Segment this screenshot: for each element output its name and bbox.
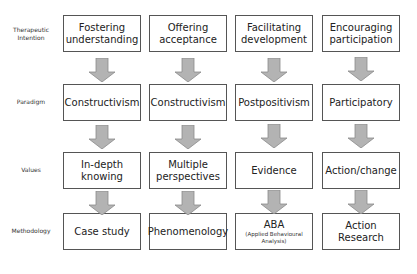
box-paradigm-participatory: Participatory xyxy=(322,84,400,121)
row-label-values: Values xyxy=(0,166,62,174)
box-text: Research xyxy=(338,232,384,244)
box-text: Action xyxy=(345,220,376,232)
box-text: acceptance xyxy=(159,34,217,46)
box-text: Facilitating xyxy=(247,22,301,34)
down-arrow-icon xyxy=(89,125,115,149)
row-label-line: Therapeutic xyxy=(0,26,62,34)
row-label-line: Intention xyxy=(0,34,62,42)
down-arrow-icon xyxy=(261,190,287,214)
box-text: Participatory xyxy=(329,97,392,109)
box-values-action-change: Action/change xyxy=(322,152,400,189)
box-subtext: Analysis) xyxy=(262,238,287,245)
down-arrow-icon xyxy=(175,191,201,215)
down-arrow-icon xyxy=(89,191,115,215)
box-text: ABA xyxy=(264,219,285,231)
box-paradigm-constructivism: Constructivism xyxy=(149,84,227,121)
down-arrow-icon xyxy=(348,190,374,214)
box-text: Phenomenology xyxy=(148,226,229,238)
box-text: knowing xyxy=(81,171,123,183)
row-label-therapeutic-intention: Therapeutic Intention xyxy=(0,26,62,42)
row-label-paradigm: Paradigm xyxy=(0,98,62,106)
box-text: Encouraging xyxy=(330,22,393,34)
box-text: Multiple xyxy=(168,159,208,171)
down-arrow-icon xyxy=(89,58,115,82)
box-text: development xyxy=(241,34,307,46)
box-intention-offering-acceptance: Offering acceptance xyxy=(149,15,227,52)
down-arrow-icon xyxy=(348,124,374,148)
box-text: Offering xyxy=(168,22,209,34)
box-text: Constructivism xyxy=(151,97,226,109)
box-text: Constructivism xyxy=(65,97,140,109)
box-text: perspectives xyxy=(156,171,220,183)
down-arrow-icon xyxy=(348,57,374,81)
box-paradigm-constructivism: Constructivism xyxy=(63,84,141,121)
box-text: understanding xyxy=(66,34,139,46)
box-values-multiple-perspectives: Multiple perspectives xyxy=(149,152,227,189)
box-methodology-action-research: Action Research xyxy=(322,213,400,250)
box-text: Case study xyxy=(74,226,129,238)
box-text: Evidence xyxy=(251,165,297,177)
box-methodology-case-study: Case study xyxy=(63,213,141,250)
box-subtext: (Applied Behavioural xyxy=(245,231,302,238)
box-intention-fostering-understanding: Fostering understanding xyxy=(63,15,141,52)
box-text: Action/change xyxy=(325,165,397,177)
down-arrow-icon xyxy=(175,125,201,149)
box-text: participation xyxy=(329,34,392,46)
down-arrow-icon xyxy=(261,58,287,82)
box-text: In-depth xyxy=(81,159,123,171)
down-arrow-icon xyxy=(175,58,201,82)
box-intention-encouraging-participation: Encouraging participation xyxy=(322,15,400,52)
box-intention-facilitating-development: Facilitating development xyxy=(235,15,313,52)
box-paradigm-postpositivism: Postpositivism xyxy=(235,84,313,121)
box-methodology-aba: ABA (Applied Behavioural Analysis) xyxy=(235,213,313,250)
box-values-evidence: Evidence xyxy=(235,152,313,189)
box-text: Postpositivism xyxy=(238,97,310,109)
down-arrow-icon xyxy=(261,124,287,148)
box-text: Fostering xyxy=(79,22,125,34)
row-label-methodology: Methodology xyxy=(0,227,62,235)
box-methodology-phenomenology: Phenomenology xyxy=(149,213,227,250)
box-values-in-depth-knowing: In-depth knowing xyxy=(63,152,141,189)
